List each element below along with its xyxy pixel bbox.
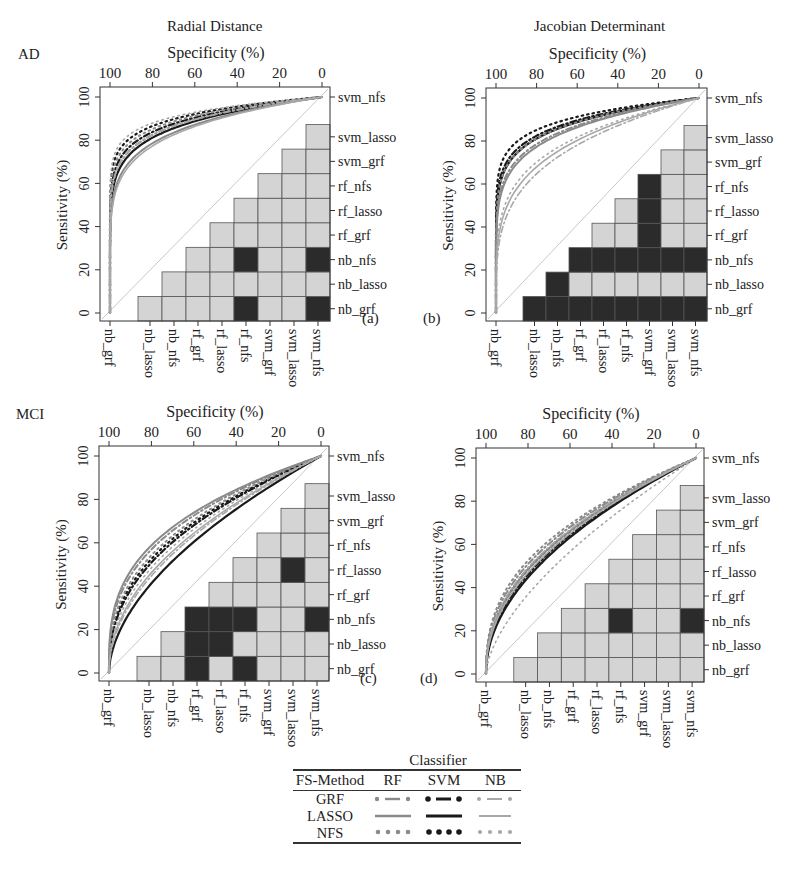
legend-table: FS-Method RF SVM NB GRF LASSO NFS <box>293 769 521 844</box>
panel-tag: (d) <box>420 670 438 687</box>
matrix-cell <box>633 584 657 609</box>
legend-line-rf-grf <box>373 794 413 804</box>
svg-text:20: 20 <box>453 624 468 638</box>
x-axis-title: Specificity (%) <box>542 405 639 423</box>
matrix-cell <box>609 657 633 682</box>
matrix-cell <box>633 559 657 584</box>
matrix-cell <box>609 559 633 584</box>
matrix-cell <box>538 657 562 682</box>
matrix-cell <box>633 633 657 658</box>
matrix-cell <box>585 608 609 633</box>
legend: Classifier FS-Method RF SVM NB GRF LASSO… <box>293 752 521 844</box>
legend-method-grf: GRF <box>293 791 367 809</box>
svg-text:nb_nfs: nb_nfs <box>712 614 750 629</box>
matrix-cell <box>680 633 704 658</box>
y-axis-sensitivity: 020406080100 <box>453 448 476 678</box>
svg-text:nb_lasso: nb_lasso <box>518 690 533 739</box>
legend-line-nb-grf <box>475 794 515 804</box>
svg-text:nb_nfs: nb_nfs <box>541 690 556 728</box>
legend-method-nfs: NFS <box>293 825 367 843</box>
svg-text:60: 60 <box>563 426 578 442</box>
matrix-cell <box>561 657 585 682</box>
matrix-cell <box>680 559 704 584</box>
legend-line-svm-grf <box>424 794 464 804</box>
roc-chart-d: 100806040200Specificity (%)020406080100S… <box>0 0 787 875</box>
svg-text:rf_nfs: rf_nfs <box>712 540 745 555</box>
matrix-cell <box>656 608 680 633</box>
significance-matrix <box>514 486 704 682</box>
matrix-cell <box>656 657 680 682</box>
legend-title: Classifier <box>355 752 521 769</box>
legend-line-rf-lasso <box>373 811 413 821</box>
legend-line-rf-nfs <box>373 826 413 838</box>
legend-line-svm-lasso <box>424 811 464 821</box>
y-axis-title: Sensitivity (%) <box>430 521 447 611</box>
matrix-cell <box>609 584 633 609</box>
legend-line-svm-nfs <box>424 826 464 838</box>
matrix-cell <box>656 535 680 560</box>
matrix-cell <box>680 657 704 682</box>
svg-text:rf_lasso: rf_lasso <box>712 565 756 580</box>
svg-text:rf_grf: rf_grf <box>565 690 580 723</box>
legend-header-svm: SVM <box>418 770 469 791</box>
svg-text:100: 100 <box>475 426 498 442</box>
matrix-cell <box>609 608 633 633</box>
svg-text:100: 100 <box>453 448 468 469</box>
matrix-cell <box>680 584 704 609</box>
svg-text:0: 0 <box>692 426 700 442</box>
matrix-cell <box>585 657 609 682</box>
matrix-cell <box>609 633 633 658</box>
svg-text:svm_grf: svm_grf <box>712 515 759 530</box>
matrix-cell <box>656 584 680 609</box>
legend-line-nb-lasso <box>475 811 515 821</box>
svg-text:80: 80 <box>521 426 536 442</box>
matrix-column-labels: nb_grfnb_lassonb_nfsrf_grfrf_lassorf_nfs… <box>478 682 699 748</box>
matrix-cell <box>538 633 562 658</box>
matrix-cell <box>633 657 657 682</box>
legend-header-rf: RF <box>367 770 418 791</box>
svg-text:60: 60 <box>453 537 468 551</box>
legend-method-lasso: LASSO <box>293 808 367 825</box>
matrix-cell <box>680 535 704 560</box>
legend-header-fs-method: FS-Method <box>293 770 367 791</box>
svg-text:svm_lasso: svm_lasso <box>660 690 675 748</box>
matrix-cell <box>656 559 680 584</box>
matrix-cell <box>656 633 680 658</box>
matrix-cell <box>633 608 657 633</box>
svg-text:svm_nfs: svm_nfs <box>712 451 759 466</box>
svg-text:rf_nfs: rf_nfs <box>613 690 628 723</box>
matrix-cell <box>680 608 704 633</box>
matrix-cell <box>585 584 609 609</box>
legend-line-nb-nfs <box>475 826 515 838</box>
svg-text:40: 40 <box>453 581 468 595</box>
matrix-cell <box>561 633 585 658</box>
svg-text:svm_nfs: svm_nfs <box>684 690 699 737</box>
x-axis-specificity: 100806040200 <box>475 426 700 448</box>
matrix-cell <box>561 608 585 633</box>
matrix-cell <box>656 510 680 535</box>
matrix-row-labels: svm_nfssvm_lassosvm_grfrf_nfsrf_lassorf_… <box>704 451 770 678</box>
svg-text:rf_lasso: rf_lasso <box>589 690 604 734</box>
matrix-cell <box>680 486 704 511</box>
legend-header-nb: NB <box>470 770 521 791</box>
matrix-cell <box>514 657 538 682</box>
matrix-cell <box>633 535 657 560</box>
svg-text:svm_grf: svm_grf <box>637 690 652 737</box>
matrix-cell <box>585 633 609 658</box>
svg-text:svm_lasso: svm_lasso <box>712 491 770 506</box>
svg-text:nb_lasso: nb_lasso <box>712 638 761 653</box>
svg-text:0: 0 <box>453 671 468 678</box>
svg-text:80: 80 <box>453 494 468 508</box>
svg-text:nb_grf: nb_grf <box>712 663 750 678</box>
svg-text:nb_grf: nb_grf <box>478 690 493 728</box>
matrix-cell <box>680 510 704 535</box>
svg-text:40: 40 <box>605 426 620 442</box>
svg-text:20: 20 <box>647 426 662 442</box>
svg-text:rf_grf: rf_grf <box>712 589 745 604</box>
roc-panel-d: 100806040200Specificity (%)020406080100S… <box>0 0 787 760</box>
